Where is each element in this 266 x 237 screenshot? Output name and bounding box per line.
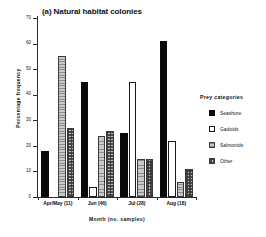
y-tick-label: 50 bbox=[17, 67, 31, 72]
legend-label: Seashore bbox=[220, 111, 241, 116]
legend-label: Salmonids bbox=[220, 143, 243, 148]
legend-item-gadoids[interactable]: Gadoids bbox=[200, 124, 264, 134]
bar-other-apr-may bbox=[67, 128, 75, 197]
bar-salmonids-aug bbox=[177, 182, 185, 197]
y-tick-label: 70 bbox=[17, 16, 31, 21]
legend-swatch-other-icon bbox=[209, 158, 215, 164]
bar-seashore-apr-may bbox=[41, 151, 49, 197]
y-tick-mark bbox=[33, 146, 37, 147]
legend-item-salmonids[interactable]: Salmonids bbox=[200, 140, 264, 150]
plot-area bbox=[38, 18, 196, 197]
x-tick-mark bbox=[196, 197, 197, 200]
y-tick-mark bbox=[33, 171, 37, 172]
y-tick-mark bbox=[33, 18, 37, 19]
y-tick-mark bbox=[33, 95, 37, 96]
bar-salmonids-jul bbox=[137, 159, 145, 197]
bar-other-aug bbox=[185, 169, 193, 197]
bar-other-jun bbox=[106, 131, 114, 197]
legend-title: Prey categories bbox=[200, 94, 264, 100]
x-axis-title: Month (no. samples) bbox=[38, 216, 196, 222]
y-tick-mark bbox=[33, 69, 37, 70]
bar-gadoids-jun bbox=[89, 187, 97, 197]
y-tick-label: 30 bbox=[17, 118, 31, 123]
legend-swatch-seashore-icon bbox=[209, 110, 215, 116]
y-tick-label: 10 bbox=[17, 169, 31, 174]
bar-salmonids-apr-may bbox=[58, 56, 66, 197]
x-group-label: Jul (28) bbox=[117, 200, 157, 206]
x-group-label: Apr/May (11) bbox=[38, 200, 78, 206]
y-tick-mark bbox=[33, 120, 37, 121]
legend-items: SeashoreGadoidsSalmonidsOther bbox=[200, 108, 264, 166]
y-tick-label: 40 bbox=[17, 92, 31, 97]
bar-seashore-aug bbox=[160, 41, 168, 197]
y-axis-title: Percentage frequency bbox=[15, 38, 21, 158]
y-tick-label: 60 bbox=[17, 41, 31, 46]
bar-gadoids-jul bbox=[129, 82, 137, 197]
legend-item-seashore[interactable]: Seashore bbox=[200, 108, 264, 118]
y-tick-label: 20 bbox=[17, 144, 31, 149]
legend: Prey categories SeashoreGadoidsSalmonids… bbox=[200, 94, 264, 172]
legend-swatch-salmonids-icon bbox=[209, 142, 215, 148]
figure-panel-a: (a) Natural habitat colonies Percentage … bbox=[0, 0, 266, 237]
x-group-label: Aug (18) bbox=[157, 200, 197, 206]
bar-other-jul bbox=[146, 159, 154, 197]
bar-gadoids-aug bbox=[168, 141, 176, 197]
legend-item-other[interactable]: Other bbox=[200, 156, 264, 166]
y-tick-mark bbox=[33, 197, 37, 198]
legend-swatch-gadoids-icon bbox=[209, 126, 215, 132]
bar-seashore-jun bbox=[81, 82, 89, 197]
y-tick-mark bbox=[33, 44, 37, 45]
legend-label: Other bbox=[220, 159, 233, 164]
legend-label: Gadoids bbox=[220, 127, 239, 132]
bar-seashore-jul bbox=[120, 133, 128, 197]
chart-title: (a) Natural habitat colonies bbox=[42, 7, 142, 16]
y-tick-label: 0 bbox=[17, 195, 31, 200]
x-group-label: Jun (46) bbox=[78, 200, 118, 206]
bar-salmonids-jun bbox=[98, 136, 106, 197]
